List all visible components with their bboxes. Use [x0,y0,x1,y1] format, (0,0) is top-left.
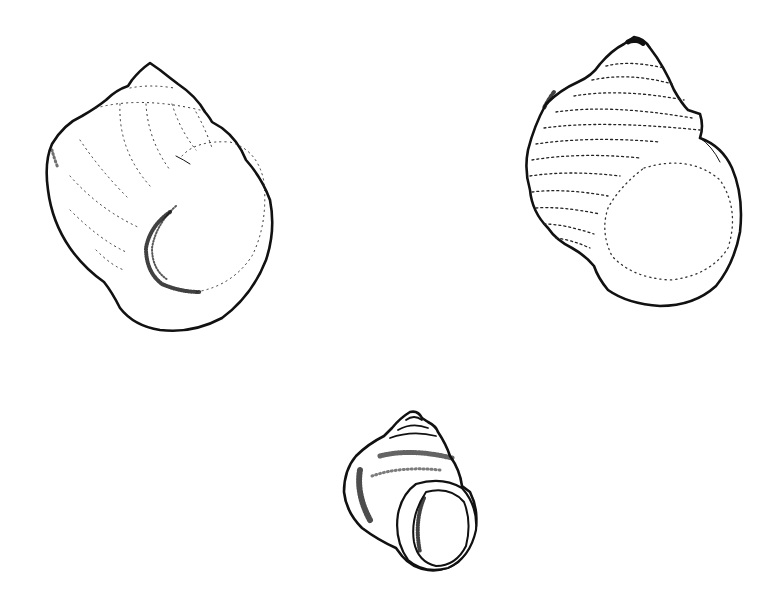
shell-right [526,37,741,306]
illustration-plate [0,0,781,596]
shell-bottom [344,412,476,571]
shell-left [47,63,273,331]
